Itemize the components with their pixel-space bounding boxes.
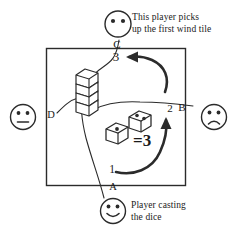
die-right-pip-2 xyxy=(142,117,146,121)
die-left xyxy=(106,123,128,144)
label-count-two: 2 xyxy=(167,102,173,114)
player-token-right[interactable] xyxy=(202,105,227,130)
player-left-face-circle xyxy=(11,105,36,130)
die-right xyxy=(129,111,151,132)
player-token-top[interactable] xyxy=(105,11,131,37)
arrow-two-to-three xyxy=(126,52,167,93)
label-count-three: 3 xyxy=(113,49,120,64)
caption-bottom-line1: Player casting xyxy=(131,200,186,212)
player-bottom-eye-left xyxy=(107,205,111,209)
caption-top: This player picks up the first wind tile xyxy=(132,12,211,35)
tile-wall-stack xyxy=(76,69,98,116)
leader-line-d-label xyxy=(57,98,78,113)
player-bottom-face-circle xyxy=(101,199,126,224)
caption-bottom-line2: the dice xyxy=(131,212,186,224)
player-left-eye-left xyxy=(17,111,21,115)
player-left-eye-right xyxy=(26,111,30,115)
label-corner-right-b: B xyxy=(178,101,185,113)
player-top-face-circle xyxy=(105,11,131,37)
mahjong-table-diagram: C 3 2 B 1 A D =3 xyxy=(0,0,237,236)
player-right-eye-right xyxy=(217,111,221,115)
die-left-pip-1 xyxy=(115,127,119,131)
diagram-root: C 3 2 B 1 A D =3 xyxy=(0,0,237,236)
die-right-pip-1 xyxy=(135,114,139,118)
label-corner-left-d: D xyxy=(47,109,55,120)
player-bottom-eye-right xyxy=(116,205,120,209)
caption-bottom: Player casting the dice xyxy=(131,200,186,223)
caption-top-line1: This player picks xyxy=(132,12,211,24)
player-top-eye-left xyxy=(111,19,115,23)
player-top-eye-right xyxy=(121,19,125,23)
player-token-left[interactable] xyxy=(11,105,36,130)
player-right-face-circle xyxy=(202,105,227,130)
player-right-eye-left xyxy=(208,111,212,115)
label-count-one: 1 xyxy=(109,163,115,175)
player-token-bottom[interactable] xyxy=(101,199,126,224)
caption-top-line2: up the first wind tile xyxy=(132,24,211,36)
label-corner-bottom-a: A xyxy=(109,181,117,192)
dice-total-label: =3 xyxy=(133,131,151,150)
